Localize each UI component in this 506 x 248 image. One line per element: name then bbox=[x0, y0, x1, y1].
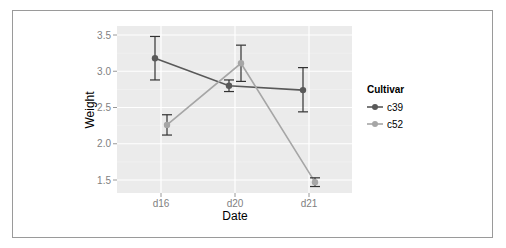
legend-label: c39 bbox=[387, 102, 404, 113]
data-point-c39 bbox=[152, 55, 158, 61]
legend-title: Cultivar bbox=[367, 84, 404, 95]
legend-label: c52 bbox=[387, 119, 404, 130]
data-point-c52 bbox=[312, 179, 318, 185]
y-tick-label: 2.0 bbox=[97, 138, 111, 149]
y-axis-title: Weight bbox=[83, 91, 97, 129]
x-tick-label: d20 bbox=[227, 198, 244, 209]
legend-key-point bbox=[372, 104, 378, 110]
legend-entry-c52: c52 bbox=[367, 119, 404, 130]
chart: 1.52.02.53.03.5 d16d20d21 Date Weight Cu… bbox=[0, 0, 506, 248]
legend-key-point bbox=[372, 121, 378, 127]
x-tick-label: d21 bbox=[301, 198, 318, 209]
y-tick-label: 3.5 bbox=[97, 30, 111, 41]
data-point-c39 bbox=[300, 87, 306, 93]
legend-entry-c39: c39 bbox=[367, 102, 404, 113]
data-point-c52 bbox=[238, 60, 244, 66]
y-tick-label: 1.5 bbox=[97, 175, 111, 186]
data-point-c52 bbox=[164, 122, 170, 128]
y-axis: 1.52.02.53.03.5 bbox=[97, 30, 117, 186]
y-tick-label: 2.5 bbox=[97, 102, 111, 113]
y-tick-label: 3.0 bbox=[97, 66, 111, 77]
legend: Cultivar c39c52 bbox=[367, 84, 404, 130]
data-point-c39 bbox=[226, 83, 232, 89]
x-axis-title: Date bbox=[222, 209, 248, 223]
x-axis: d16d20d21 bbox=[153, 193, 318, 209]
x-tick-label: d16 bbox=[153, 198, 170, 209]
